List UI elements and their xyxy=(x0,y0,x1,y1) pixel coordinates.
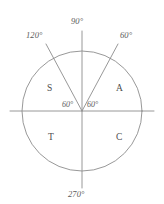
interior-angle-label-right: 60° xyxy=(87,101,98,109)
quadrant-label-cosine: C xyxy=(116,133,123,143)
interior-angle-label-left: 60° xyxy=(62,101,73,109)
quadrant-label-tangent: T xyxy=(48,133,54,143)
angle-label-90: 90° xyxy=(71,17,83,26)
figure-canvas: 120° 90° 60° 270° 60° 60° S A T C xyxy=(0,0,164,204)
angle-label-270: 270° xyxy=(68,190,85,199)
angle-label-60: 60° xyxy=(120,31,132,40)
quadrant-label-all: A xyxy=(116,84,123,94)
unit-circle-diagram xyxy=(0,0,164,204)
quadrant-label-sine: S xyxy=(47,84,53,94)
angle-label-120: 120° xyxy=(26,31,43,40)
